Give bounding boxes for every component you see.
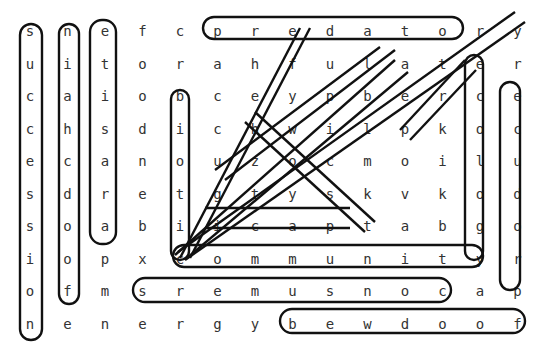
grid-letter: e: [470, 54, 490, 74]
grid-letter: a: [358, 21, 378, 41]
grid-letter: k: [358, 184, 378, 204]
grid-letter: f: [508, 314, 528, 334]
grid-letter: h: [245, 119, 265, 139]
grid-letter: i: [208, 216, 228, 236]
grid-letter: s: [20, 184, 40, 204]
grid-letter: m: [358, 151, 378, 171]
grid-letter: s: [20, 216, 40, 236]
grid-letter: c: [208, 86, 228, 106]
grid-letter: s: [20, 21, 40, 41]
grid-letter: o: [208, 249, 228, 269]
grid-letter: s: [95, 119, 115, 139]
grid-letter: n: [95, 314, 115, 334]
grid-letter: c: [433, 281, 453, 301]
grid-letter: o: [470, 184, 490, 204]
grid-letter: c: [58, 151, 78, 171]
grid-letter: r: [470, 21, 490, 41]
grid-letter: t: [433, 54, 453, 74]
grid-letter: e: [133, 314, 153, 334]
grid-letter: c: [320, 151, 340, 171]
grid-letter: n: [133, 151, 153, 171]
grid-letter: e: [320, 314, 340, 334]
grid-letter: b: [170, 86, 190, 106]
grid-letter: a: [395, 216, 415, 236]
grid-letter: i: [95, 86, 115, 106]
grid-letter: y: [283, 184, 303, 204]
grid-letter: t: [170, 184, 190, 204]
grid-letter: e: [395, 86, 415, 106]
grid-letter: p: [508, 281, 528, 301]
grid-letter: g: [470, 216, 490, 236]
grid-letter: r: [95, 184, 115, 204]
grid-letter: y: [245, 314, 265, 334]
grid-letter: o: [170, 151, 190, 171]
grid-letter: c: [208, 119, 228, 139]
grid-letter: a: [208, 54, 228, 74]
grid-letter: l: [358, 54, 378, 74]
grid-letter: p: [320, 86, 340, 106]
grid-letter: o: [433, 314, 453, 334]
word-search-puzzle: snefcpredatoryuitorahfulatercaiobceypber…: [0, 0, 542, 351]
grid-letter: b: [358, 86, 378, 106]
grid-letter: o: [470, 314, 490, 334]
grid-letter: o: [133, 54, 153, 74]
grid-letter: p: [320, 216, 340, 236]
grid-letter: o: [283, 151, 303, 171]
grid-letter: d: [133, 119, 153, 139]
grid-letter: f: [133, 21, 153, 41]
grid-letter: i: [433, 151, 453, 171]
grid-letter: t: [395, 21, 415, 41]
grid-letter: w: [358, 314, 378, 334]
grid-letter: u: [283, 281, 303, 301]
grid-letter: a: [395, 54, 415, 74]
grid-letter: h: [58, 119, 78, 139]
grid-letter: r: [170, 281, 190, 301]
grid-letter: e: [133, 184, 153, 204]
grid-letter: d: [58, 184, 78, 204]
grid-letter: o: [58, 249, 78, 269]
grid-letter: n: [20, 314, 40, 334]
grid-letter: p: [208, 21, 228, 41]
grid-letter: r: [245, 21, 265, 41]
grid-letter: o: [133, 86, 153, 106]
grid-letter: s: [320, 184, 340, 204]
grid-letter: o: [20, 281, 40, 301]
grid-letter: z: [245, 151, 265, 171]
grid-letter: a: [470, 281, 490, 301]
grid-letter: s: [133, 281, 153, 301]
grid-letter: h: [245, 54, 265, 74]
grid-letter: t: [245, 184, 265, 204]
grid-letter: y: [283, 86, 303, 106]
grid-letter: e: [508, 86, 528, 106]
grid-letter: i: [395, 249, 415, 269]
grid-letter: i: [58, 54, 78, 74]
grid-letter: w: [283, 119, 303, 139]
grid-letter: i: [20, 249, 40, 269]
grid-letter: o: [395, 151, 415, 171]
grid-letter: s: [320, 281, 340, 301]
grid-letter: g: [208, 184, 228, 204]
grid-letter: i: [320, 119, 340, 139]
grid-letter: a: [95, 216, 115, 236]
grid-letter: e: [245, 86, 265, 106]
grid-letter: m: [245, 281, 265, 301]
grid-letter: l: [358, 119, 378, 139]
grid-letter: o: [395, 281, 415, 301]
grid-letter: u: [320, 249, 340, 269]
grid-letter: i: [170, 216, 190, 236]
grid-letter: c: [508, 119, 528, 139]
grid-letter: o: [58, 216, 78, 236]
grid-letter: i: [170, 119, 190, 139]
grid-letter: t: [358, 216, 378, 236]
grid-letter: t: [95, 54, 115, 74]
grid-letter: y: [508, 21, 528, 41]
grid-letter: v: [395, 184, 415, 204]
grid-letter: e: [208, 281, 228, 301]
grid-letter: p: [95, 249, 115, 269]
grid-letter: n: [58, 21, 78, 41]
grid-letter: c: [245, 216, 265, 236]
grid-letter: o: [470, 119, 490, 139]
grid-letter: r: [170, 314, 190, 334]
grid-letter: n: [358, 249, 378, 269]
grid-letter: m: [95, 281, 115, 301]
